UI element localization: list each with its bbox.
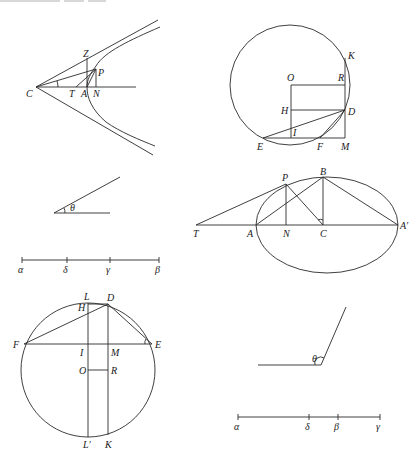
label-O: O xyxy=(79,365,86,376)
label-I: I xyxy=(292,127,297,138)
label-E: E xyxy=(154,339,161,350)
label-B: B xyxy=(320,166,326,177)
label-beta: β xyxy=(333,421,339,432)
label-Z: Z xyxy=(83,48,89,59)
label-D: D xyxy=(347,106,356,117)
label-gamma: γ xyxy=(106,264,111,275)
label-D: D xyxy=(106,292,115,303)
angle-mark-E xyxy=(145,339,146,344)
acute-angle-figure: θ xyxy=(54,177,120,213)
label-beta: β xyxy=(154,264,160,275)
angle-arc xyxy=(64,208,65,213)
hyperbola-curve xyxy=(87,27,160,146)
geometry-figures: Z P C T A N K O R H D I E F M θ xyxy=(0,0,417,461)
label-K: K xyxy=(347,50,356,61)
upper-asymptote xyxy=(36,20,158,87)
label-R: R xyxy=(110,365,117,376)
segment-BA-prime xyxy=(323,177,398,225)
label-H: H xyxy=(77,302,86,313)
label-T: T xyxy=(193,228,200,239)
label-A: A xyxy=(80,88,88,99)
label-P: P xyxy=(97,67,104,78)
segment-DE xyxy=(108,304,152,344)
tangent-TP xyxy=(196,184,286,225)
label-F: F xyxy=(316,141,324,152)
line-segment-2: α δ β γ xyxy=(234,414,381,432)
label-K: K xyxy=(104,439,113,450)
circle-top-figure: K O R H D I E F M xyxy=(230,25,356,152)
label-T: T xyxy=(69,88,76,99)
angle-ray-upper xyxy=(321,307,346,365)
label-A-prime: A′ xyxy=(399,220,409,231)
line-segment-1: α δ γ β xyxy=(18,257,160,275)
label-M: M xyxy=(340,141,350,152)
angle-arc xyxy=(57,81,58,87)
ellipse-figure: P B T A N C A′ xyxy=(193,166,409,273)
label-theta: θ xyxy=(70,202,75,213)
right-angle-mark xyxy=(318,219,323,220)
label-F: F xyxy=(12,339,20,350)
hyperbola-figure: Z P C T A N xyxy=(26,20,160,155)
label-M: M xyxy=(110,347,120,358)
label-P: P xyxy=(281,172,288,183)
label-A: A xyxy=(246,228,254,239)
label-I: I xyxy=(79,347,84,358)
label-L: L xyxy=(83,291,90,302)
label-H: H xyxy=(280,105,289,116)
label-E: E xyxy=(256,141,263,152)
obtuse-angle-figure: θ xyxy=(258,307,346,365)
label-O: O xyxy=(287,72,294,83)
label-C: C xyxy=(320,228,327,239)
label-gamma: γ xyxy=(376,421,381,432)
label-L-prime: L′ xyxy=(82,439,92,450)
label-alpha: α xyxy=(234,421,240,432)
label-N: N xyxy=(92,88,101,99)
label-C: C xyxy=(26,88,33,99)
label-delta: δ xyxy=(305,421,310,432)
circle-bottom-figure: L D H F E I M O R L′ K xyxy=(12,291,161,450)
angle-ray-upper xyxy=(54,177,120,213)
label-alpha: α xyxy=(18,264,24,275)
label-theta: θ xyxy=(312,353,317,364)
label-N: N xyxy=(282,228,291,239)
label-delta: δ xyxy=(63,264,68,275)
label-R: R xyxy=(337,72,344,83)
segment-FD xyxy=(24,304,108,344)
